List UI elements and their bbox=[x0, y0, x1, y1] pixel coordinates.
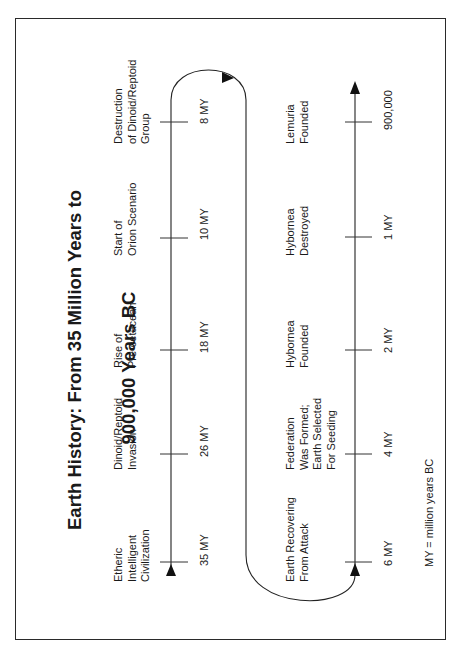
lower-event-label: Federation Was Formed; Earth Selected Fo… bbox=[284, 398, 338, 470]
lower-event-label: Lemuria Founded bbox=[284, 101, 311, 144]
lower-time-label: 4 MY bbox=[382, 431, 395, 457]
upper-event-label: Dinoid/Reptoid Invasion bbox=[112, 398, 139, 470]
upper-ticks bbox=[160, 122, 188, 562]
upper-event-label: Start of Orion Scenario bbox=[112, 183, 139, 256]
lower-event-label: Earth Recovering From Attack bbox=[284, 497, 311, 582]
upper-event-label: Destruction of Dinoid/Reptoid Group bbox=[112, 60, 153, 144]
end-arrowhead-icon bbox=[350, 81, 360, 94]
upper-time-label: 10 MY bbox=[198, 208, 211, 240]
lower-time-label: 900,000 bbox=[382, 90, 395, 130]
title-line-1: Earth History: From 35 Million Years to bbox=[66, 206, 84, 530]
lower-ticks bbox=[345, 122, 372, 562]
lower-event-label: Hybornea Founded bbox=[284, 320, 311, 368]
upper-time-label: 8 MY bbox=[198, 98, 211, 124]
upper-event-label: Etheric Intelligent Civilization bbox=[112, 529, 153, 582]
footnote: MY = million years BC bbox=[423, 459, 436, 567]
upper-time-label: 35 MY bbox=[198, 534, 211, 566]
bottom-curve-arrowhead-icon bbox=[350, 563, 360, 576]
lower-time-label: 1 MY bbox=[382, 214, 395, 240]
lower-event-label: Hybornea Destroyed bbox=[284, 206, 311, 256]
start-arrowhead-icon bbox=[166, 564, 176, 576]
upper-time-label: 26 MY bbox=[198, 425, 211, 457]
lower-time-label: 2 MY bbox=[382, 327, 395, 353]
lower-time-label: 6 MY bbox=[382, 540, 395, 566]
upper-event-label: Rise of Pre-cetacean bbox=[112, 303, 139, 368]
upper-time-label: 18 MY bbox=[198, 321, 211, 353]
